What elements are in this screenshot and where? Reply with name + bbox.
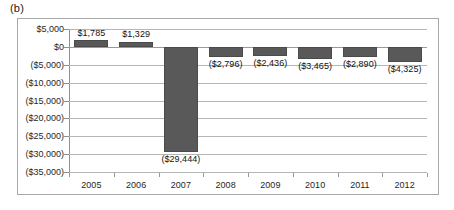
bar [209,47,243,57]
bar-data-label: ($4,325) [388,64,422,74]
y-axis-tick-mark [64,154,69,155]
x-axis-minor-tick [159,173,160,177]
y-axis-tick-mark [64,65,69,66]
x-axis-minor-tick [114,173,115,177]
figure-panel-b: (b) $5,000$0($5,000)($10,000)($15,000)($… [0,0,454,210]
bar-data-label: $1,785 [78,28,106,38]
bar [253,47,287,56]
bar [74,40,108,46]
y-axis-tick-label: $5,000 [6,24,64,34]
y-axis-tick-mark [64,29,69,30]
bar [343,47,377,57]
x-axis-minor-tick [427,173,428,177]
y-axis-tick-label: $0 [6,42,64,52]
gridline [69,154,427,155]
gridline [69,136,427,137]
y-axis-tick-mark [64,118,69,119]
gridline [69,83,427,84]
x-axis-tick-label: 2012 [395,180,415,190]
bar [164,47,198,152]
x-axis-tick-label: 2005 [81,180,101,190]
y-axis-tick-label: ($10,000) [6,78,64,88]
y-axis-tick-mark [64,136,69,137]
y-axis-tick-label: ($5,000) [6,60,64,70]
bar-data-label: ($2,890) [343,59,377,69]
bar-data-label: ($29,444) [162,154,201,164]
x-axis-minor-tick [248,173,249,177]
y-axis-tick-label: ($35,000) [6,167,64,177]
x-axis-minor-tick [338,173,339,177]
y-axis-tick-label: ($25,000) [6,131,64,141]
gridline [69,118,427,119]
x-axis-tick-label: 2006 [126,180,146,190]
x-axis-minor-tick [293,173,294,177]
x-axis-minor-tick [69,173,70,177]
y-axis-tick-label: ($15,000) [6,96,64,106]
bar [388,47,422,62]
x-axis-tick-marks [69,173,427,177]
x-axis-minor-tick [382,173,383,177]
x-axis-tick-labels: 20052006200720082009201020112012 [69,180,427,194]
bar-data-label: $1,329 [122,29,150,39]
y-axis-tick-mark [64,172,69,173]
panel-label: (b) [10,2,24,14]
x-axis-tick-label: 2007 [171,180,191,190]
y-axis-tick-labels: $5,000$0($5,000)($10,000)($15,000)($20,0… [2,29,64,172]
y-axis-tick-mark [64,101,69,102]
x-axis-tick-label: 2008 [216,180,236,190]
y-axis-tick-mark [64,47,69,48]
x-axis-tick-label: 2009 [260,180,280,190]
bar-data-label: ($2,436) [254,58,288,68]
x-axis-minor-tick [203,173,204,177]
y-axis-tick-label: ($30,000) [6,149,64,159]
plot-area: $1,785$1,329($29,444)($2,796)($2,436)($3… [69,29,427,172]
x-axis-tick-label: 2011 [350,180,369,190]
gridline [69,101,427,102]
y-axis-tick-mark [64,83,69,84]
bar [298,47,332,59]
bar-data-label: ($3,465) [298,61,332,71]
bar [119,42,153,47]
bar-data-label: ($2,796) [209,59,243,69]
x-axis-tick-label: 2010 [305,180,325,190]
y-axis-tick-label: ($20,000) [6,113,64,123]
